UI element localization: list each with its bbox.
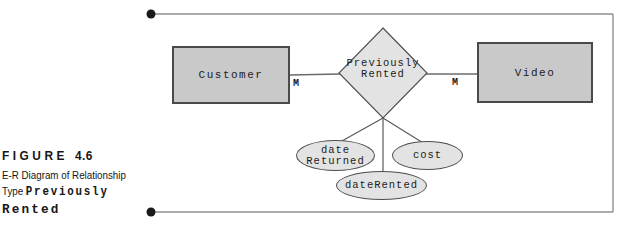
entity-customer: Customer [172, 46, 290, 104]
caption-line2-text: Type [2, 185, 23, 197]
figure-label: FIGURE4.6 [2, 148, 130, 163]
figure-label-word: FIGURE [2, 148, 68, 163]
caption-line3: Rented [2, 200, 147, 218]
attribute-cost-label: cost [413, 150, 442, 161]
relationship-label-line2: Rented [343, 69, 423, 80]
attribute-date-returned-line1: date [321, 145, 350, 156]
attribute-date-rented: dateRented [336, 171, 427, 200]
caption-line2: Type Previously [2, 183, 125, 200]
caption-line2-code: Previously [26, 184, 109, 200]
attribute-date-rented-label: dateRented [345, 180, 418, 191]
figure-caption: FIGURE4.6 E-R Diagram of Relationship Ty… [2, 148, 147, 218]
figure-4-6-er-diagram: Customer Video Previously Rented M M dat… [0, 0, 634, 225]
cardinality-right: M [448, 77, 462, 88]
relationship-label: Previously Rented [343, 58, 423, 80]
attribute-date-returned: date Returned [296, 140, 375, 171]
caption-line1: E-R Diagram of Relationship [2, 168, 125, 183]
entity-video: Video [477, 42, 593, 103]
attribute-date-returned-line2: Returned [306, 156, 364, 167]
entity-customer-label: Customer [199, 69, 264, 81]
connector-customer-relationship [290, 74, 340, 75]
bullet-top-icon [147, 10, 156, 19]
attribute-cost: cost [392, 141, 463, 170]
caption-line3-code: Rented [2, 203, 61, 218]
entity-video-label: Video [515, 67, 556, 79]
figure-number: 4.6 [75, 148, 93, 163]
bullet-bottom-icon [147, 208, 156, 217]
cardinality-left: M [289, 78, 303, 89]
